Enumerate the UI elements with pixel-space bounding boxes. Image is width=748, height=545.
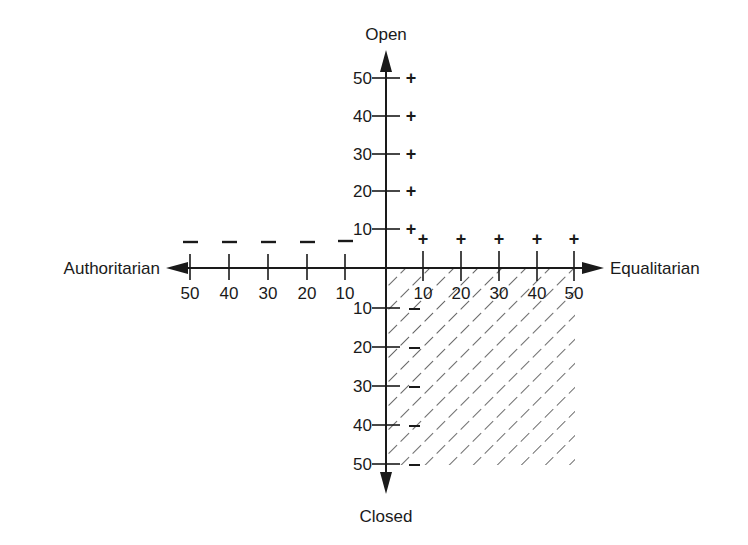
axis-label-equalitarian: Equalitarian: [610, 259, 700, 278]
svg-text:20: 20: [452, 284, 471, 303]
svg-text:+: +: [406, 144, 417, 164]
arrow-left-icon: [166, 262, 188, 274]
svg-text:+: +: [406, 68, 417, 88]
axis-label-open: Open: [365, 25, 407, 44]
open-tick-labels: 50 40 30 20 10: [353, 69, 372, 239]
closed-tick-labels: 10 20 30 40 50: [353, 299, 372, 474]
svg-text:50: 50: [353, 455, 372, 474]
svg-text:40: 40: [220, 284, 239, 303]
svg-text:+: +: [406, 219, 417, 239]
authoritarian-minus-markers: [183, 241, 353, 242]
open-plus-markers: + + + + +: [406, 68, 417, 239]
svg-text:10: 10: [353, 220, 372, 239]
svg-text:30: 30: [353, 145, 372, 164]
svg-text:10: 10: [336, 284, 355, 303]
svg-text:10: 10: [353, 299, 372, 318]
svg-text:10: 10: [414, 284, 433, 303]
svg-text:+: +: [418, 229, 429, 249]
authoritarian-tick-labels: 50 40 30 20 10: [181, 284, 355, 303]
svg-text:50: 50: [181, 284, 200, 303]
svg-text:+: +: [532, 229, 543, 249]
svg-text:20: 20: [353, 182, 372, 201]
arrow-right-icon: [582, 262, 604, 274]
svg-text:30: 30: [353, 377, 372, 396]
axis-label-closed: Closed: [360, 507, 413, 526]
svg-text:+: +: [494, 229, 505, 249]
attitude-quadrant-diagram: Open Closed Authoritarian Equalitarian 5…: [0, 0, 748, 545]
arrow-down-icon: [380, 472, 392, 494]
equalitarian-plus-markers: + + + + +: [418, 229, 580, 249]
svg-text:40: 40: [353, 416, 372, 435]
svg-text:50: 50: [353, 69, 372, 88]
svg-text:+: +: [456, 229, 467, 249]
svg-text:+: +: [406, 181, 417, 201]
svg-text:+: +: [569, 229, 580, 249]
svg-text:20: 20: [298, 284, 317, 303]
svg-text:50: 50: [565, 284, 584, 303]
axis-label-authoritarian: Authoritarian: [64, 259, 160, 278]
arrow-up-icon: [380, 50, 392, 72]
svg-text:40: 40: [353, 107, 372, 126]
svg-text:40: 40: [528, 284, 547, 303]
svg-text:20: 20: [353, 338, 372, 357]
svg-text:30: 30: [259, 284, 278, 303]
svg-text:30: 30: [490, 284, 509, 303]
svg-text:+: +: [406, 106, 417, 126]
